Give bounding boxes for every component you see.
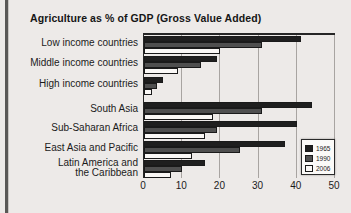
bar-2006-high-income-countries <box>144 89 152 95</box>
chart-page: Agriculture as % of GDP (Gross Value Add… <box>0 0 351 213</box>
legend-item-2006: 2006 <box>305 163 334 173</box>
legend-label: 2006 <box>313 165 330 172</box>
legend-item-1990: 1990 <box>305 153 334 163</box>
x-tick-label-50: 50 <box>328 180 339 191</box>
bar-2006-sub-saharan-africa <box>144 133 205 139</box>
category-label: East Asia and Pacific <box>5 143 138 153</box>
legend: 196519902006 <box>301 139 335 175</box>
category-label: Latin America and the Caribbean <box>5 158 138 177</box>
category-label: Low income countries <box>5 38 138 48</box>
x-tick-label-20: 20 <box>214 180 225 191</box>
bar-2006-south-asia <box>144 114 213 120</box>
x-tick-label-0: 0 <box>140 180 146 191</box>
chart-title: Agriculture as % of GDP (Gross Value Add… <box>30 12 261 24</box>
bar-2006-east-asia-and-pacific <box>144 153 192 159</box>
legend-swatch-1965 <box>305 145 313 152</box>
legend-label: 1965 <box>313 145 330 152</box>
bar-2006-latin-america-and <box>144 172 171 178</box>
x-tick-label-30: 30 <box>252 180 263 191</box>
legend-item-1965: 1965 <box>305 143 334 153</box>
legend-swatch-1990 <box>305 155 313 162</box>
legend-label: 1990 <box>313 155 330 162</box>
legend-swatch-2006 <box>305 165 313 172</box>
x-tick-label-40: 40 <box>290 180 301 191</box>
x-tick-label-10: 10 <box>176 180 187 191</box>
category-label: High income countries <box>5 79 138 89</box>
category-label: Sub-Saharan Africa <box>5 124 138 134</box>
bar-2006-middle-income-countries <box>144 68 178 74</box>
bar-2006-low-income-countries <box>144 48 220 54</box>
category-label: South Asia <box>5 104 138 114</box>
category-label: Middle income countries <box>5 58 138 68</box>
